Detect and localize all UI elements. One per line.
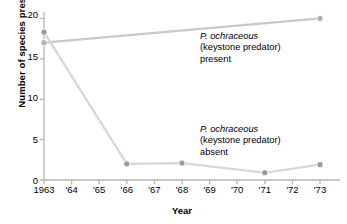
annotation-species-name: P. ochraceous [200,124,258,134]
annotation-absent: P. ochraceous (keystone predator) absent [200,124,281,158]
axis-lines [44,12,340,180]
data-point-marker [41,40,47,46]
data-series-layer [41,15,323,175]
data-point-marker [317,15,323,21]
data-point-marker [41,29,47,35]
chart-figure: Number of species present 0 5 10 15 20 1… [0,0,347,224]
annotation-state: present [200,54,231,64]
data-point-marker [124,161,130,167]
annotation-state: absent [200,147,228,157]
annotation-qualifier: (keystone predator) [200,42,281,52]
x-tick-label: '73 [300,185,340,195]
annotation-present: P. ochraceous (keystone predator) presen… [200,31,281,65]
annotation-qualifier: (keystone predator) [200,135,281,145]
data-point-marker [317,162,323,168]
x-axis-title: Year [44,205,320,216]
data-point-marker [179,160,185,166]
annotation-species-name: P. ochraceous [200,31,258,41]
data-point-marker [262,170,268,176]
